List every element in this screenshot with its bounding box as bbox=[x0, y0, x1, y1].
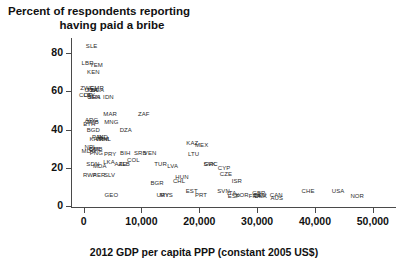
data-point-label: LVA bbox=[167, 163, 178, 169]
data-point-label: KHM bbox=[89, 136, 103, 142]
chart-title-line-1: Percent of respondents reporting bbox=[8, 4, 238, 18]
data-point-label: BIH bbox=[120, 150, 130, 156]
x-axis-tick-label: 40,000 bbox=[299, 215, 331, 227]
data-point-label: TUR bbox=[154, 161, 167, 167]
x-axis-tick bbox=[315, 207, 316, 213]
x-axis-tick bbox=[373, 207, 374, 213]
x-axis-line bbox=[71, 207, 396, 208]
plot-area: 020406080010,00020,00030,00040,00050,000… bbox=[72, 38, 396, 206]
data-point-label: ISR bbox=[232, 178, 242, 184]
data-point-label: AUS bbox=[270, 195, 283, 201]
data-point-label: GRC bbox=[204, 161, 218, 167]
data-point-label: KEN bbox=[87, 69, 100, 75]
x-axis-tick bbox=[199, 207, 200, 213]
data-point-label: CHE bbox=[302, 188, 315, 194]
y-axis-tick bbox=[66, 168, 72, 169]
data-point-label: YEM bbox=[90, 62, 103, 68]
data-point-label: SLE bbox=[86, 43, 98, 49]
data-point-label: COL bbox=[127, 157, 140, 163]
data-point-label: BGD bbox=[87, 127, 100, 133]
data-point-label: CZE bbox=[220, 171, 232, 177]
data-point-label: PRT bbox=[195, 192, 207, 198]
x-axis-tick-label: 10,000 bbox=[125, 215, 157, 227]
data-point-label: IDN bbox=[103, 94, 114, 100]
data-point-label: BGR bbox=[150, 180, 163, 186]
chart-root: Percent of respondents reporting having … bbox=[0, 0, 408, 274]
x-axis-title: 2012 GDP per capita PPP (constant 2005 U… bbox=[0, 246, 408, 258]
y-axis-tick-label: 20 bbox=[51, 161, 63, 173]
data-point-label: PRY bbox=[104, 151, 117, 157]
data-point-label: ZMB bbox=[86, 119, 99, 125]
y-axis-tick-label: 40 bbox=[51, 123, 63, 135]
data-point-label: VEN bbox=[144, 150, 157, 156]
y-axis-tick bbox=[66, 53, 72, 54]
data-point-label: KOR bbox=[235, 192, 248, 198]
data-point-label: GEO bbox=[105, 192, 119, 198]
data-point-label: HUN bbox=[175, 174, 188, 180]
data-point-label: NOR bbox=[350, 193, 364, 199]
data-point-label: MDA bbox=[93, 163, 107, 169]
y-axis-tick bbox=[66, 130, 72, 131]
chart-title-line-2: having paid a bribe bbox=[8, 18, 238, 32]
y-axis-tick-label: 0 bbox=[57, 199, 63, 211]
x-axis-tick bbox=[141, 207, 142, 213]
x-axis-tick-label: 50,000 bbox=[357, 215, 389, 227]
data-point-label: SEN bbox=[88, 94, 101, 100]
x-axis-tick-label: 20,000 bbox=[183, 215, 215, 227]
y-axis-tick-label: 60 bbox=[51, 84, 63, 96]
x-axis-tick bbox=[84, 207, 85, 213]
data-point-label: DZA bbox=[120, 127, 132, 133]
data-point-label: DNK bbox=[254, 193, 267, 199]
y-axis-tick-label: 80 bbox=[51, 46, 63, 58]
data-point-label: SLV bbox=[104, 172, 115, 178]
x-axis-tick-label: 30,000 bbox=[241, 215, 273, 227]
data-point-label: ZAF bbox=[138, 111, 150, 117]
x-axis-tick bbox=[257, 207, 258, 213]
data-point-label: USA bbox=[332, 188, 345, 194]
data-point-label: LTU bbox=[188, 151, 199, 157]
y-axis-tick bbox=[66, 206, 72, 207]
data-point-label: PNG bbox=[90, 150, 103, 156]
data-point-label: MYS bbox=[160, 192, 173, 198]
x-axis-tick-label: 0 bbox=[81, 215, 87, 227]
y-axis-tick bbox=[66, 91, 72, 92]
data-point-label: MEX bbox=[195, 142, 208, 148]
chart-title: Percent of respondents reporting having … bbox=[8, 4, 238, 32]
data-point-label: MNG bbox=[104, 119, 118, 125]
data-point-label: MAR bbox=[103, 111, 117, 117]
